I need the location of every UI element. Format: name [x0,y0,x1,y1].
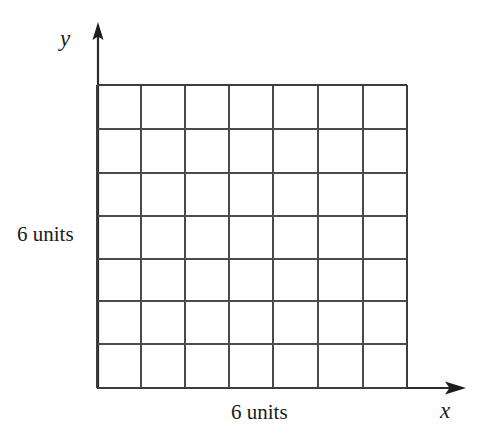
figure-background [0,0,486,435]
y-axis-label: y [60,27,70,50]
horizontal-side-length-label: 6 units [231,402,288,423]
coordinate-grid-figure [0,0,486,435]
x-axis-label: x [440,399,450,422]
vertical-side-length-label: 6 units [17,224,74,245]
figure-container: y x 6 units 6 units [0,0,486,435]
